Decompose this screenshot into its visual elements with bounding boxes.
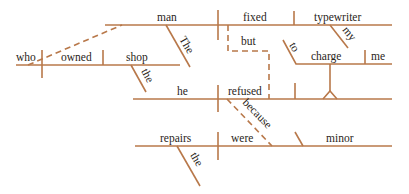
subordinate-clause: repairs were minor the [135,132,392,186]
word-who: who [16,51,36,63]
word-minor: minor [326,132,354,144]
word-fixed: fixed [243,11,267,23]
word-me: me [371,50,385,62]
word-shop: shop [126,51,148,64]
word-were: were [231,132,253,144]
predicate-complement-divider [295,132,303,146]
sentence-diagram: man fixed typewriter The my who owned sh… [0,0,409,194]
word-the-shop: the [139,66,156,84]
word-charge: charge [311,50,341,63]
word-man: man [157,11,177,23]
word-refused: refused [228,85,262,97]
word-repairs: repairs [160,132,192,145]
word-owned: owned [61,51,92,63]
infinitive-fork [323,91,337,99]
word-the-main: The [177,34,196,55]
word-because: because [241,96,275,131]
word-he: he [177,85,188,97]
word-but: but [241,35,257,47]
word-typewriter: typewriter [314,11,361,24]
relative-clause: who owned shop the [16,25,180,92]
word-the-repairs: the [188,150,205,168]
